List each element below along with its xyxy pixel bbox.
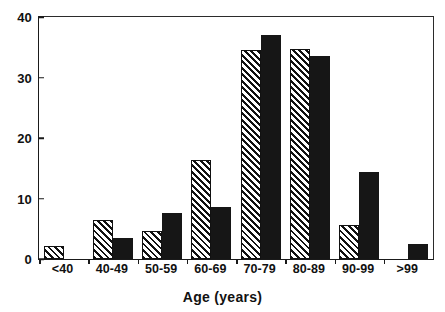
x-axis-tick-label: <40 — [52, 262, 74, 276]
bar-hatched — [142, 231, 162, 259]
bar-group — [191, 17, 231, 259]
y-axis-tick-label: 0 — [25, 252, 39, 267]
x-axis-tick-label: 60-69 — [194, 262, 226, 276]
bar-solid — [211, 207, 231, 259]
bar-group — [388, 17, 428, 259]
bar-group — [44, 17, 84, 259]
bars-layer — [39, 17, 433, 259]
bar-solid — [359, 172, 379, 259]
x-axis-tick-label: 70-79 — [243, 262, 275, 276]
bar-group — [339, 17, 379, 259]
x-axis-tick-label: 40-49 — [96, 262, 128, 276]
bar-solid — [261, 35, 281, 259]
x-axis-tick-label: >99 — [397, 262, 419, 276]
bar-hatched — [191, 160, 211, 259]
y-axis-tick-label: 40 — [17, 10, 39, 25]
y-axis-tick-label: 30 — [17, 70, 39, 85]
bar-group — [290, 17, 330, 259]
bar-group — [142, 17, 182, 259]
bar-hatched — [339, 225, 359, 259]
x-axis-title: Age (years) — [0, 289, 445, 305]
bar-chart-figure: 010203040 <4040-4950-5960-6970-7980-8990… — [0, 0, 445, 312]
bar-hatched — [93, 220, 113, 259]
bar-group — [241, 17, 281, 259]
bar-hatched — [241, 50, 261, 259]
x-axis-tick-labels: <4040-4950-5960-6970-7980-8990-99>99 — [38, 262, 432, 282]
x-axis-tick-label: 50-59 — [145, 262, 177, 276]
bar-solid — [162, 213, 182, 259]
bar-group — [93, 17, 133, 259]
y-axis-tick-label: 10 — [17, 191, 39, 206]
x-axis-tick-label: 80-89 — [293, 262, 325, 276]
bar-solid — [113, 238, 133, 259]
bar-hatched — [44, 246, 64, 259]
x-axis-tick-label: 90-99 — [342, 262, 374, 276]
y-axis-tick-label: 20 — [17, 131, 39, 146]
bar-solid — [408, 244, 428, 259]
bar-hatched — [290, 49, 310, 259]
plot-area: 010203040 — [38, 16, 434, 260]
bar-solid — [310, 56, 330, 259]
